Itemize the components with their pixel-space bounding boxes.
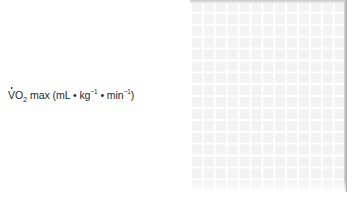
y-axis-label: VO2 max (mL • kg−1 • min−1) <box>8 88 134 104</box>
grid-top-border <box>190 0 346 3</box>
grid-right-border <box>344 0 347 192</box>
unit-text-1: max (mL • kg <box>27 89 90 101</box>
vo2-v-dot: V <box>8 89 15 101</box>
grid-bottom-fade <box>190 180 346 194</box>
unit-text-2: • min <box>98 89 124 101</box>
unit-close: ) <box>131 89 134 101</box>
plot-grid <box>190 0 346 192</box>
